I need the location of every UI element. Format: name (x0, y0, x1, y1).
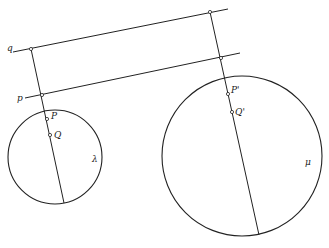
label-line-q: q (7, 43, 13, 53)
label-point-Q-prime: Q' (235, 107, 245, 117)
p-intersection-right-point (219, 56, 222, 59)
line-q (13, 9, 228, 52)
label-circle-lambda: λ (91, 154, 98, 164)
point-P-prime (226, 92, 229, 95)
transversal-left (31, 49, 64, 203)
label-point-P: P (50, 111, 58, 121)
point-Q-prime (230, 110, 233, 113)
point-Q (48, 133, 51, 136)
label-line-p: p (17, 93, 23, 103)
circle-lambda (8, 110, 102, 204)
q-intersection-right-point (208, 10, 211, 13)
p-intersection-left-point (40, 93, 43, 96)
label-point-P-prime: P' (230, 85, 240, 95)
diagram-canvas: q p P Q λ P' Q' μ (0, 0, 329, 248)
label-circle-mu: μ (305, 157, 311, 167)
label-point-Q: Q (54, 130, 62, 140)
line-p (25, 53, 240, 98)
transversal-right (210, 12, 259, 235)
q-intersection-left-point (29, 47, 32, 50)
point-P (45, 117, 48, 120)
